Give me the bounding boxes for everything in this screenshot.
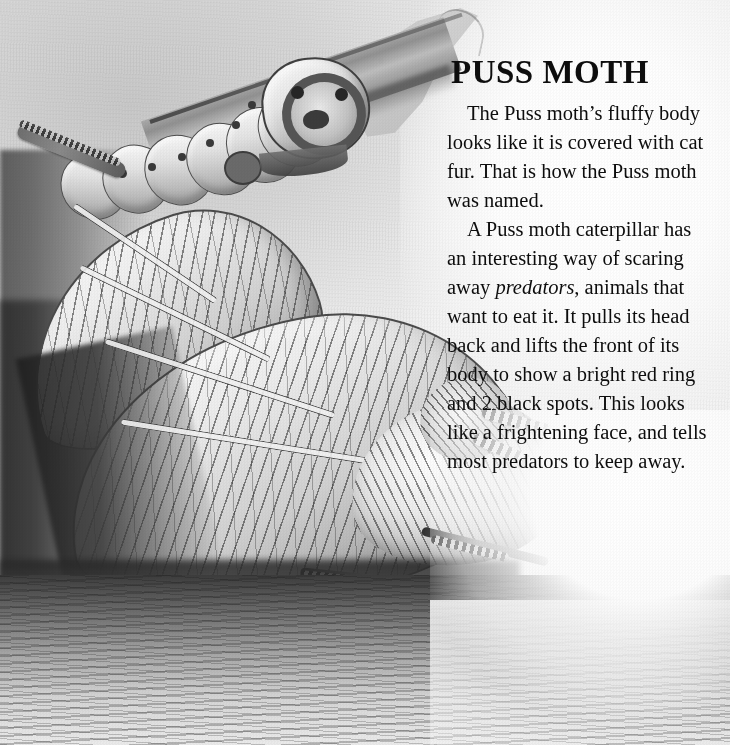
caterpillar-spot <box>206 139 214 147</box>
italic-term-predators: predators <box>495 276 574 298</box>
caterpillar-spot <box>178 153 186 161</box>
caterpillar-dark-ring <box>224 151 262 185</box>
caterpillar-spot <box>232 121 240 129</box>
article-text-column: PUSS MOTH The Puss moth’s fluffy body lo… <box>447 56 715 476</box>
caterpillar-spot <box>148 163 156 171</box>
body-paragraph-1: The Puss moth’s fluffy body looks like i… <box>447 99 715 215</box>
caterpillar-eye-spot <box>335 88 348 101</box>
body-paragraph-2: A Puss moth caterpillar has an interesti… <box>447 215 715 476</box>
caterpillar-eye-spot <box>291 86 304 99</box>
paragraph-2-after-italic: , animals that want to eat it. It pulls … <box>447 276 707 472</box>
page-title: PUSS MOTH <box>451 56 715 89</box>
book-page: PUSS MOTH The Puss moth’s fluffy body lo… <box>0 0 730 745</box>
caterpillar-spot <box>248 101 256 109</box>
